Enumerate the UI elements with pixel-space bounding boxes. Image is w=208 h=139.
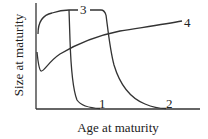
curve-3-plateau — [38, 10, 78, 34]
curve-1-label: 1 — [99, 96, 106, 111]
curve-2-label: 2 — [166, 96, 173, 111]
curve-4-label: 4 — [184, 15, 191, 30]
curve-3-plateau-right — [90, 10, 106, 15]
x-axis-label: Age at maturity — [77, 120, 159, 135]
curve-4 — [37, 21, 182, 71]
y-axis-label: Size at maturity — [11, 13, 26, 96]
curve-3-label: 3 — [80, 2, 87, 17]
chart: 3 4 1 2 Age at maturity Size at maturity — [0, 0, 208, 139]
curve-1 — [69, 10, 100, 109]
